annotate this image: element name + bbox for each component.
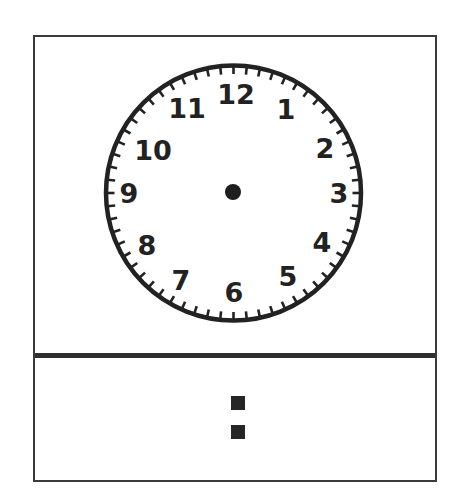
analog-clock-face: 12 1 2 3 4 5 6 7 8 9 10 11 (0, 0, 458, 360)
colon-bottom-dot (231, 425, 245, 439)
numeral-5: 5 (279, 261, 298, 292)
numeral-7: 7 (172, 265, 191, 296)
numeral-6: 6 (225, 277, 244, 308)
numeral-11: 11 (168, 93, 206, 124)
numeral-2: 2 (316, 133, 335, 164)
numeral-10: 10 (134, 135, 172, 166)
digital-minutes-field[interactable] (255, 393, 335, 443)
digital-time-box[interactable] (35, 358, 435, 478)
numeral-9: 9 (120, 178, 139, 209)
digital-hours-field[interactable] (145, 393, 225, 443)
numeral-12: 12 (217, 79, 255, 110)
colon-top-dot (231, 396, 245, 410)
center-pivot-dot (225, 184, 241, 200)
numeral-3: 3 (330, 178, 349, 209)
numeral-8: 8 (138, 230, 157, 261)
numeral-4: 4 (313, 227, 332, 258)
numeral-1: 1 (277, 94, 296, 125)
